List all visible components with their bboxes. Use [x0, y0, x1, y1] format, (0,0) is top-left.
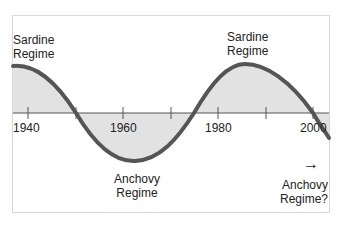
annotation-sardine-regime-1: Sardine Regime: [13, 33, 54, 61]
tick-label-1980: 1980: [205, 121, 232, 135]
tick-label-1960: 1960: [110, 121, 137, 135]
annotation-anchovy-regime-1: Anchovy Regime: [114, 172, 160, 200]
annotation-anchovy-regime-2: Anchovy Regime?: [280, 178, 328, 206]
tick-label-1940: 1940: [13, 121, 40, 135]
annotation-sardine-regime-2: Sardine Regime: [227, 30, 268, 58]
tick-label-2000: 2000: [300, 121, 327, 135]
arrow-right-icon: →: [303, 157, 319, 171]
